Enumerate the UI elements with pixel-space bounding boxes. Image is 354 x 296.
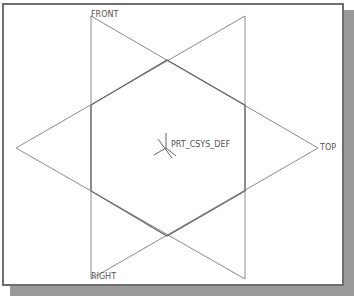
datum-plane-display[interactable]: PRT_CSYS_DEF FRONT TOP RIGHT	[0, 0, 354, 296]
right-label: RIGHT	[91, 272, 116, 281]
top-label: TOP	[319, 143, 336, 152]
csys-label: PRT_CSYS_DEF	[171, 140, 231, 149]
front-label: FRONT	[91, 10, 118, 19]
